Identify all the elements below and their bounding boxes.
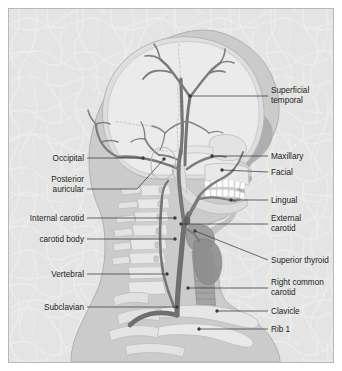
label-line: Maxillary: [271, 152, 304, 161]
label-line: Internal carotid: [30, 214, 85, 223]
label-line: carotid: [271, 224, 296, 233]
leader-dot-internal-carotid: [173, 216, 176, 219]
label-maxillary: Maxillary: [271, 152, 304, 161]
label-vertebral: Vertebral: [51, 270, 84, 279]
leader-dot-facial: [220, 168, 223, 171]
label-line: Right common: [271, 278, 324, 287]
label-line: Subclavian: [44, 303, 85, 312]
label-line: Occipital: [53, 154, 85, 163]
label-facial: Facial: [271, 168, 293, 177]
label-line: Superior thyroid: [271, 256, 329, 265]
label-line: Posterior: [51, 175, 84, 184]
anatomy-figure-root: SuperficialtemporalMaxillaryFacialLingua…: [0, 0, 342, 371]
label-internal-carotid: Internal carotid: [30, 214, 85, 223]
label-line: Facial: [271, 168, 293, 177]
leader-dot-superior-thyroid: [193, 229, 196, 232]
label-line: Rib 1: [271, 325, 291, 334]
label-line: auricular: [53, 185, 85, 194]
leader-dot-carotid-body: [173, 237, 176, 240]
figure-frame: SuperficialtemporalMaxillaryFacialLingua…: [8, 8, 334, 363]
leader-dot-right-common-carotid: [186, 286, 189, 289]
label-line: carotid body: [39, 235, 85, 244]
leader-dot-superficial-temporal: [188, 94, 191, 97]
label-line: Clavicle: [271, 307, 300, 316]
leader-dot-vertebral: [165, 272, 168, 275]
label-line: Lingual: [271, 196, 298, 205]
label-occipital: Occipital: [53, 154, 85, 163]
leader-dot-occipital: [141, 156, 144, 159]
label-line: Superficial: [271, 86, 309, 95]
anatomy-illustration: SuperficialtemporalMaxillaryFacialLingua…: [9, 9, 333, 362]
leader-dot-maxillary: [210, 154, 213, 157]
label-posterior-auricular: Posteriorauricular: [51, 175, 84, 194]
label-superior-thyroid: Superior thyroid: [271, 256, 329, 265]
label-clavicle: Clavicle: [271, 307, 300, 316]
leader-dot-clavicle: [215, 309, 218, 312]
leader-dot-posterior-auricular: [162, 157, 165, 160]
leader-dot-external-carotid: [179, 222, 182, 225]
leader-dot-rib-1: [197, 327, 200, 330]
label-rib-1: Rib 1: [271, 325, 291, 334]
leader-dot-lingual: [229, 198, 232, 201]
label-carotid-body: carotid body: [39, 235, 85, 244]
label-line: carotid: [271, 288, 296, 297]
label-line: External: [271, 214, 301, 223]
leader-dot-subclavian: [175, 305, 178, 308]
label-subclavian: Subclavian: [44, 303, 85, 312]
label-line: Vertebral: [51, 270, 84, 279]
label-line: temporal: [271, 96, 303, 105]
label-lingual: Lingual: [271, 196, 298, 205]
